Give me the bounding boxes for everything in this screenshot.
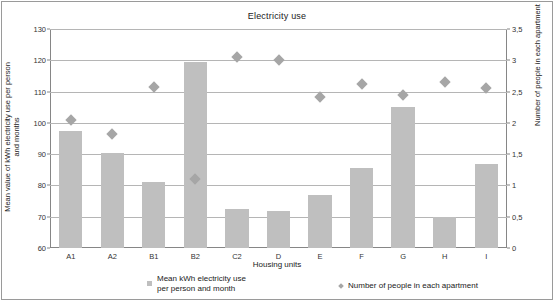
legend-item-markers: Number of people in each apartment [339, 281, 478, 291]
y-axis-left-title: Mean value of kWh electricity use per pe… [4, 62, 20, 212]
chart-legend: Mean kWh electricity use per person and … [2, 274, 552, 298]
bar-slot [175, 29, 217, 248]
y-axis-right-tick-label: 2 [512, 118, 516, 127]
x-axis-tick-label: F [359, 252, 364, 261]
bar-slot [341, 29, 383, 248]
y-axis-right-tick-mark [507, 248, 510, 249]
legend-item-bars-label: Mean kWh electricity use per person and … [157, 274, 246, 293]
legend-diamond-swatch-icon [338, 283, 344, 289]
x-axis-tick-label: G [400, 252, 406, 261]
x-axis-tick-label: A1 [66, 252, 75, 261]
bar [433, 217, 456, 248]
y-axis-left-tick-label: 80 [38, 181, 46, 190]
legend-item-markers-label: Number of people in each apartment [348, 281, 478, 291]
y-axis-left-tick-label: 130 [33, 25, 46, 34]
bar [267, 211, 290, 248]
y-axis-right-tick-label: 3,5 [512, 25, 522, 34]
bar [184, 62, 207, 248]
y-axis-right-tick-mark [507, 154, 510, 155]
bar [308, 195, 331, 248]
chart-title: Electricity use [2, 11, 552, 21]
y-axis-right-tick-mark [507, 29, 510, 30]
y-axis-right-tick-label: 0 [512, 244, 516, 253]
y-axis-right-tick-mark [507, 185, 510, 186]
plot-area: 60708090100110120130 00,511,522,533,5 [50, 29, 507, 248]
bar-slot [133, 29, 175, 248]
bar [142, 182, 165, 248]
chart-container: Electricity use Mean value of kWh electr… [1, 1, 553, 300]
y-axis-right-tick-mark [507, 122, 510, 123]
x-axis-tick-label: B2 [191, 252, 200, 261]
legend-item-bars: Mean kWh electricity use per person and … [147, 274, 246, 293]
x-axis-tick-label: D [276, 252, 281, 261]
bar-slot [299, 29, 341, 248]
y-axis-left-tick-label: 60 [38, 244, 46, 253]
y-axis-left-tick-label: 110 [34, 87, 46, 96]
bar-slot [50, 29, 92, 248]
y-axis-right-tick-mark [507, 91, 510, 92]
bar-slot [424, 29, 466, 248]
x-axis-tick-label: I [485, 252, 487, 261]
y-axis-left-tick-label: 120 [33, 56, 46, 65]
bar [350, 168, 373, 248]
x-axis-tick-label: H [442, 252, 447, 261]
y-axis-left-tick-label: 90 [38, 150, 46, 159]
y-axis-right-tick-mark [507, 216, 510, 217]
bar-slot [382, 29, 424, 248]
bar-slot [465, 29, 507, 248]
y-axis-right-tick-label: 0,5 [512, 212, 522, 221]
y-axis-right-tick-label: 1 [512, 181, 516, 190]
y-axis-right-title: Number of people in each apartment [533, 0, 547, 140]
bar [391, 107, 414, 248]
y-axis-left-tick-label: 100 [33, 118, 46, 127]
x-axis-tick-label: E [318, 252, 323, 261]
legend-bar-swatch-icon [147, 281, 152, 286]
bar [225, 209, 248, 248]
bar [475, 164, 498, 248]
bar [101, 153, 124, 248]
y-axis-right-tick-mark [507, 60, 510, 61]
bar [59, 131, 82, 248]
x-axis-tick-label: C2 [232, 252, 242, 261]
y-axis-right-tick-label: 2,5 [512, 87, 522, 96]
x-axis-title: Housing units [2, 260, 552, 269]
x-axis-tick-label: A2 [108, 252, 117, 261]
y-axis-right-tick-label: 3 [512, 56, 516, 65]
x-axis-tick-label: B1 [149, 252, 158, 261]
y-axis-right-tick-label: 1,5 [512, 150, 522, 159]
y-axis-left-tick-label: 70 [38, 212, 46, 221]
